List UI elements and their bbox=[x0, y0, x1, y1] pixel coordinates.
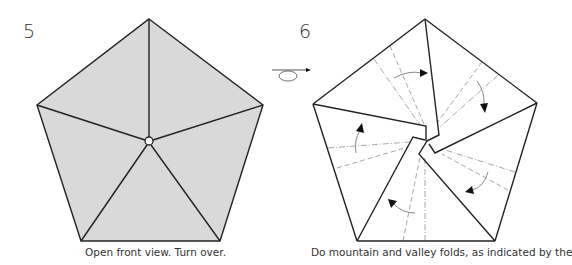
turn-over-icon bbox=[272, 68, 311, 81]
step-5-caption: Open front view. Turn over. bbox=[85, 246, 226, 258]
step-5-figure bbox=[37, 19, 263, 241]
pentagon-back-side bbox=[37, 19, 263, 241]
step-6-figure bbox=[313, 19, 537, 241]
center-point-icon bbox=[145, 137, 153, 145]
step-6-caption: Do mountain and valley folds, as indicat… bbox=[311, 246, 572, 258]
